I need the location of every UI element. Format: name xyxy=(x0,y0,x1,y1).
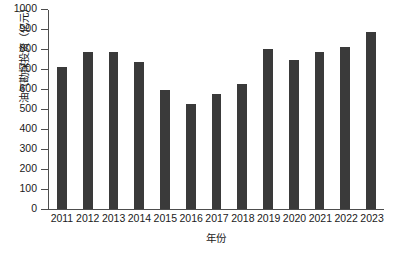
bar-chart-figure: 油气勘探投资（亿元） 01002003004005006007008009001… xyxy=(0,0,393,258)
bar xyxy=(212,94,222,209)
bar-slot xyxy=(204,10,230,209)
y-axis-tick-label: 0 xyxy=(31,202,37,215)
y-axis-tick-label: 1000 xyxy=(14,2,37,15)
y-axis-tick: 100 xyxy=(41,189,48,190)
y-axis-tick: 700 xyxy=(41,69,48,70)
x-axis-tick-label: 2011 xyxy=(49,212,75,225)
y-axis-tick-label: 300 xyxy=(19,142,37,155)
y-axis-tick: 300 xyxy=(41,149,48,150)
x-axis-tick-label: 2015 xyxy=(152,212,178,225)
y-axis-tick: 400 xyxy=(41,129,48,130)
bar xyxy=(366,32,376,209)
y-axis-tick: 0 xyxy=(41,209,48,210)
bar xyxy=(160,90,170,209)
bar-slot xyxy=(358,10,384,209)
x-axis-tick-labels: 2011201220132014201520162017201820192020… xyxy=(49,212,385,225)
bar-slot xyxy=(49,10,75,209)
y-axis-tick-label: 700 xyxy=(19,62,37,75)
bar xyxy=(263,49,273,209)
plot-area: 01002003004005006007008009001000 xyxy=(48,10,384,210)
bar-slot xyxy=(307,10,333,209)
x-axis-tick-label: 2016 xyxy=(178,212,204,225)
x-axis-tick-label: 2018 xyxy=(230,212,256,225)
y-axis-tick: 200 xyxy=(41,169,48,170)
x-axis-tick-label: 2022 xyxy=(333,212,359,225)
y-axis-tick: 800 xyxy=(41,49,48,50)
bar xyxy=(289,60,299,209)
y-axis-tick: 900 xyxy=(41,29,48,30)
bar xyxy=(340,47,350,209)
bar-slot xyxy=(178,10,204,209)
y-axis-tick-label: 200 xyxy=(19,162,37,175)
bar-slot xyxy=(229,10,255,209)
bar xyxy=(134,62,144,209)
y-axis-tick-label: 800 xyxy=(19,42,37,55)
bar xyxy=(109,52,119,209)
y-axis-tick: 600 xyxy=(41,89,48,90)
bar xyxy=(57,67,67,209)
bar-slot xyxy=(152,10,178,209)
y-axis-tick-label: 100 xyxy=(19,182,37,195)
bar xyxy=(83,52,93,209)
y-axis-tick: 500 xyxy=(41,109,48,110)
x-axis-tick-label: 2017 xyxy=(204,212,230,225)
bar xyxy=(315,52,325,209)
y-axis-tick-label: 400 xyxy=(19,122,37,135)
x-axis-tick-label: 2014 xyxy=(127,212,153,225)
y-axis-tick: 1000 xyxy=(41,9,48,10)
bar-slot xyxy=(101,10,127,209)
y-axis-tick-label: 600 xyxy=(19,82,37,95)
bar-slot xyxy=(281,10,307,209)
y-axis-tick-label: 500 xyxy=(19,102,37,115)
x-axis-title: 年份 xyxy=(48,231,384,245)
x-axis-tick-label: 2020 xyxy=(282,212,308,225)
bar xyxy=(237,84,247,209)
x-axis-tick-label: 2012 xyxy=(75,212,101,225)
bar-slot xyxy=(332,10,358,209)
bar-slot xyxy=(126,10,152,209)
x-axis-tick-label: 2021 xyxy=(307,212,333,225)
x-axis-tick-label: 2023 xyxy=(359,212,385,225)
bar-slot xyxy=(75,10,101,209)
y-axis-tick-label: 900 xyxy=(19,22,37,35)
x-axis-tick-label: 2013 xyxy=(101,212,127,225)
x-axis-tick-label: 2019 xyxy=(256,212,282,225)
bar-slot xyxy=(255,10,281,209)
bar xyxy=(186,104,196,209)
bar-series xyxy=(49,10,384,209)
